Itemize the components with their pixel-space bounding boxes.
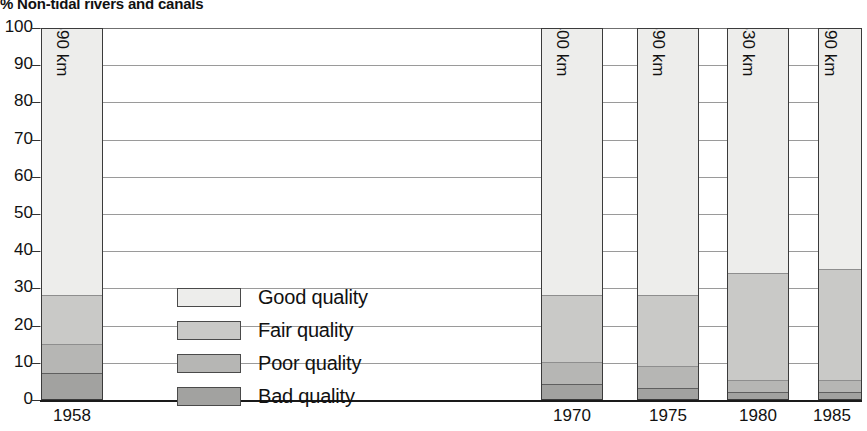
x-axis: 19581970197519801985	[0, 404, 867, 431]
legend-label-good: Good quality	[258, 286, 368, 309]
bar-segment-good-1985	[819, 29, 861, 270]
x-axis-label-1985: 1985	[800, 406, 864, 426]
bar-segment-fair-1975	[638, 295, 698, 365]
y-axis-label-50: 50	[0, 203, 33, 223]
bar-segment-poor-1975	[638, 366, 698, 388]
legend-item-fair[interactable]: Fair quality	[177, 314, 477, 347]
y-axis-label-20: 20	[0, 315, 33, 335]
legend-label-poor: Poor quality	[258, 352, 361, 375]
bar-segment-bad-1975	[638, 388, 698, 399]
y-tick-mark-10	[31, 363, 40, 364]
bar-segment-poor-1980	[728, 380, 788, 391]
bar-segment-good-1975	[638, 29, 698, 295]
legend-item-good[interactable]: Good quality	[177, 281, 477, 314]
y-tick-mark-100	[31, 28, 40, 29]
bar-1975[interactable]: 38590 km	[637, 28, 699, 400]
y-tick-mark-0	[31, 400, 40, 401]
y-tick-mark-70	[31, 140, 40, 141]
bar-segment-good-1980	[728, 29, 788, 273]
bar-segment-bad-1985	[819, 392, 861, 399]
bar-segment-fair-1970	[542, 295, 602, 362]
legend-swatch-fair-icon	[177, 321, 241, 340]
y-axis-label-10: 10	[0, 352, 33, 372]
legend-label-fair: Fair quality	[258, 319, 353, 342]
x-axis-label-1958: 1958	[29, 406, 115, 426]
x-axis-label-1980: 1980	[715, 406, 801, 426]
bar-1958[interactable]: 34690 km	[41, 28, 103, 400]
y-tick-mark-30	[31, 288, 40, 289]
bar-1985[interactable]: 41390 km	[818, 28, 862, 400]
y-tick-mark-40	[31, 251, 40, 252]
bar-segment-fair-1958	[42, 295, 102, 343]
bar-segment-poor-1970	[542, 362, 602, 384]
legend: Good qualityFair qualityPoor qualityBad …	[177, 281, 477, 413]
y-axis-label-90: 90	[0, 54, 33, 74]
y-tick-mark-90	[31, 65, 40, 66]
bar-1970[interactable]: 38400 km	[541, 28, 603, 400]
y-axis-label-70: 70	[0, 129, 33, 149]
bar-segment-poor-1958	[42, 344, 102, 374]
legend-swatch-good-icon	[177, 288, 241, 307]
bar-segment-bad-1970	[542, 384, 602, 399]
y-tick-mark-50	[31, 214, 40, 215]
x-axis-label-1970: 1970	[529, 406, 615, 426]
bar-segment-fair-1980	[728, 273, 788, 380]
bar-segment-good-1970	[542, 29, 602, 295]
y-tick-mark-60	[31, 177, 40, 178]
y-tick-mark-80	[31, 102, 40, 103]
bar-segment-good-1958	[42, 29, 102, 295]
legend-swatch-poor-icon	[177, 354, 241, 373]
y-axis-label-100: 100	[0, 17, 33, 37]
bar-1980[interactable]: 40630 km	[727, 28, 789, 400]
bar-segment-bad-1980	[728, 392, 788, 399]
plot-area: 34690 km38400 km38590 km40630 km41390 km…	[40, 28, 862, 400]
legend-item-poor[interactable]: Poor quality	[177, 347, 477, 380]
bar-segment-fair-1985	[819, 269, 861, 380]
y-axis-label-40: 40	[0, 240, 33, 260]
y-axis-label-30: 30	[0, 277, 33, 297]
bar-segment-poor-1985	[819, 380, 861, 391]
x-axis-label-1975: 1975	[625, 406, 711, 426]
y-axis-label-80: 80	[0, 91, 33, 111]
bar-segment-bad-1958	[42, 373, 102, 399]
y-axis-label-60: 60	[0, 166, 33, 186]
y-tick-mark-20	[31, 326, 40, 327]
